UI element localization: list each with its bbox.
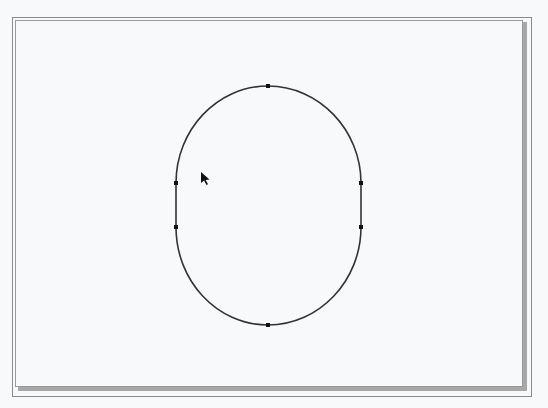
page-shadow-right — [523, 22, 527, 391]
node-handle-right-upper[interactable] — [359, 181, 363, 185]
node-handle-right-lower[interactable] — [359, 225, 363, 229]
page-frame-inner — [16, 21, 523, 387]
path-nodes[interactable] — [174, 84, 363, 327]
node-handle-left-upper[interactable] — [174, 181, 178, 185]
page-shadow-bottom — [18, 387, 527, 391]
node-handle-top[interactable] — [266, 84, 270, 88]
selected-shape-path[interactable] — [176, 86, 361, 325]
node-handle-bottom[interactable] — [266, 323, 270, 327]
drawing-canvas[interactable] — [0, 0, 548, 408]
node-handle-left-lower[interactable] — [174, 225, 178, 229]
page-frame-outer — [13, 18, 532, 397]
arrow-cursor-icon — [201, 172, 210, 185]
